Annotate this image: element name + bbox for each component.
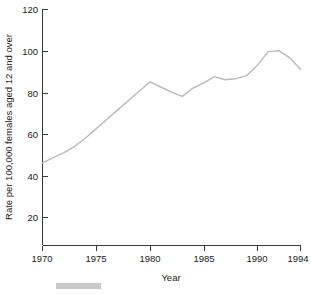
footer-gray-bar bbox=[56, 283, 101, 289]
x-tick-label-1970: 1970 bbox=[31, 253, 52, 264]
y-axis-title: Rate per 100,000 females aged 12 and ove… bbox=[3, 34, 14, 220]
y-tick-label-20: 20 bbox=[27, 212, 38, 223]
y-tick-label-60: 60 bbox=[27, 129, 38, 140]
x-axis-title: Year bbox=[161, 272, 180, 283]
x-tick-label-1994: 1994 bbox=[287, 253, 308, 264]
y-axis-ticks bbox=[43, 10, 48, 218]
y-tick-label-80: 80 bbox=[27, 88, 38, 99]
x-tick-label-1980: 1980 bbox=[139, 253, 160, 264]
chart-container: 120 100 80 60 40 20 1970 1975 1980 1985 … bbox=[0, 0, 311, 294]
y-tick-label-120: 120 bbox=[22, 4, 38, 15]
data-series-line bbox=[43, 51, 301, 163]
y-tick-label-40: 40 bbox=[27, 171, 38, 182]
y-tick-label-100: 100 bbox=[22, 46, 38, 57]
x-tick-label-1975: 1975 bbox=[85, 253, 106, 264]
x-tick-label-1990: 1990 bbox=[246, 253, 267, 264]
x-axis-ticks bbox=[43, 246, 301, 251]
line-chart: 120 100 80 60 40 20 1970 1975 1980 1985 … bbox=[0, 0, 311, 294]
x-tick-label-1985: 1985 bbox=[193, 253, 214, 264]
